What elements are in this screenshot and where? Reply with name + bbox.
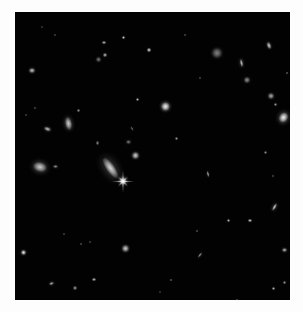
galaxy <box>25 114 27 116</box>
galaxy <box>170 279 172 281</box>
galaxy <box>43 126 51 132</box>
galaxy <box>276 110 289 124</box>
galaxy <box>159 291 161 293</box>
galaxy <box>103 53 107 57</box>
galaxy <box>212 48 222 58</box>
galaxy <box>196 230 198 232</box>
galaxy <box>248 219 252 222</box>
galaxy <box>236 299 238 300</box>
galaxy <box>272 287 275 290</box>
galaxy <box>266 41 272 49</box>
galaxy <box>92 278 96 281</box>
galaxy <box>175 137 178 140</box>
galaxy <box>147 48 151 52</box>
galaxy <box>89 241 91 243</box>
galaxy <box>29 68 35 73</box>
galaxy <box>197 252 202 258</box>
galaxy <box>206 171 209 177</box>
galaxy <box>126 140 131 144</box>
galaxy <box>132 152 139 159</box>
galaxy <box>122 245 129 252</box>
galaxy <box>136 98 139 101</box>
galaxy <box>199 77 201 79</box>
galaxy <box>268 93 274 99</box>
galaxy <box>271 203 278 211</box>
galaxy <box>21 250 26 255</box>
galaxy <box>184 34 186 36</box>
galaxy <box>96 57 101 62</box>
galaxy <box>227 219 230 222</box>
galaxy <box>286 72 288 74</box>
image-border <box>0 0 303 312</box>
galaxy <box>130 125 134 130</box>
galaxy <box>274 103 277 106</box>
galaxy <box>41 26 43 28</box>
galaxy <box>122 36 125 39</box>
galaxy <box>32 160 48 173</box>
galaxy <box>264 151 267 154</box>
galaxy <box>272 175 274 177</box>
galaxy <box>102 41 106 44</box>
galaxy <box>80 243 82 245</box>
galaxy <box>161 102 170 111</box>
galaxy <box>239 59 243 67</box>
galaxy <box>48 281 54 285</box>
galaxy <box>63 116 72 130</box>
galaxy <box>34 107 36 109</box>
galaxy <box>244 77 250 83</box>
galaxy <box>63 233 65 235</box>
galaxy <box>283 281 286 284</box>
galaxy <box>73 286 77 290</box>
galaxy <box>54 34 56 36</box>
galaxy <box>96 141 99 145</box>
deep-field-sky <box>15 12 290 300</box>
galaxy <box>282 248 287 252</box>
galaxy <box>53 165 58 168</box>
galaxy <box>77 109 80 112</box>
